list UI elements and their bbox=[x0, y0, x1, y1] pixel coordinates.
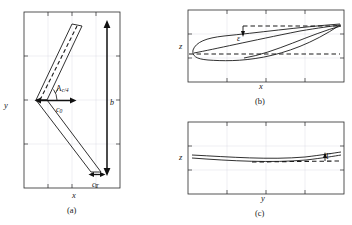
panel-b-grid bbox=[188, 10, 344, 82]
caption-panel-b: (b) bbox=[255, 96, 265, 106]
axis-label-b-z: z bbox=[179, 41, 182, 51]
tip-chord-symbol: cT bbox=[92, 180, 99, 189]
root-chord-symbol-subscript: 0 bbox=[60, 108, 63, 114]
axis-label-c-y: y bbox=[261, 193, 265, 203]
dihedral-angle-symbol: Γ bbox=[326, 152, 331, 161]
root-airfoil-lower-surface bbox=[193, 25, 340, 61]
sweep-angle-symbol-subscript: c/4 bbox=[62, 87, 69, 93]
sweep-angle-symbol: Λc/4 bbox=[56, 84, 69, 93]
span-symbol: b bbox=[110, 98, 114, 107]
axis-label-a-y: y bbox=[4, 100, 8, 110]
front-view-upper-edge bbox=[192, 152, 341, 158]
axis-label-b-x: x bbox=[259, 81, 263, 91]
tip-chord-symbol-subscript: T bbox=[96, 183, 99, 189]
tip-chord-arrowhead-right bbox=[100, 172, 106, 177]
tip-chord-arrowhead-left bbox=[89, 172, 95, 177]
tip-section-lower-line bbox=[244, 26, 341, 58]
axis-label-a-x: x bbox=[72, 190, 76, 200]
wing-geometry-figure bbox=[0, 0, 352, 225]
panel-b-side-view bbox=[188, 10, 344, 82]
wing-planform-outline-lower bbox=[36, 100, 101, 172]
caption-panel-c: (c) bbox=[255, 208, 264, 218]
panel-c-front-view bbox=[188, 122, 344, 194]
panel-a-planform bbox=[24, 12, 120, 188]
tip-section-line bbox=[194, 25, 341, 53]
twist-angle-symbol: ε bbox=[237, 34, 240, 43]
root-chord-arrowhead-right bbox=[70, 98, 77, 104]
axis-label-c-z: z bbox=[179, 152, 182, 162]
caption-panel-a: (a) bbox=[67, 205, 76, 215]
root-chord-symbol: c0 bbox=[56, 105, 62, 114]
span-arrowhead-top bbox=[104, 20, 111, 28]
